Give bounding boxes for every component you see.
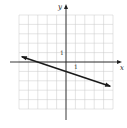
y-axis-arrow-icon [64, 4, 68, 9]
x-axis-label: x [120, 64, 124, 72]
x-tick-label: 1 [74, 63, 78, 70]
coordinate-graph: x y 1 1 [0, 0, 127, 128]
y-axis-label: y [57, 3, 63, 11]
y-tick-label: 1 [60, 49, 64, 56]
line-arrow-right-icon [105, 82, 111, 86]
line-arrow-left-icon [21, 56, 27, 60]
axes: x y 1 1 [10, 3, 124, 120]
